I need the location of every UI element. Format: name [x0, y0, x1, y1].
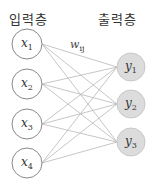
weight-label: wij — [70, 38, 84, 53]
edge-x3-y2 — [42, 104, 117, 124]
output-nodes: y1y2y3 — [117, 53, 145, 156]
neural-network-diagram: x1x2x3x4 y1y2y3 wij — [0, 0, 156, 194]
edge-x2-y2 — [42, 84, 117, 104]
connection-edges — [42, 44, 117, 163]
input-nodes: x1x2x3x4 — [12, 29, 42, 178]
edge-x4-y3 — [42, 142, 117, 163]
